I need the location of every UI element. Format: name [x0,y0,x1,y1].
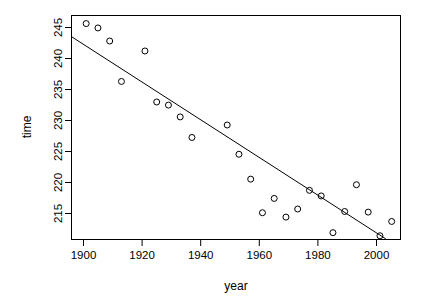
data-point [83,21,89,27]
scatter-plot-figure: 245 240 235 230 225 220 215 time 1900 19… [0,0,424,307]
data-point [377,233,383,239]
x-tick-label-1900: 1900 [71,249,97,261]
regression-fit-line [72,37,386,239]
data-point [365,209,371,215]
y-tick-label-215: 215 [52,204,64,223]
data-point [224,122,230,128]
data-point [295,206,301,212]
x-axis-ticks [84,240,377,246]
y-axis-tick-labels: 245 240 235 230 225 220 215 [52,18,64,223]
data-point [165,102,171,108]
data-point [306,187,312,193]
data-point [353,182,359,188]
x-tick-label-1960: 1960 [247,249,273,261]
data-point [154,99,160,105]
data-point [259,210,265,216]
plot-frame [72,16,401,240]
y-tick-label-235: 235 [52,80,64,99]
x-axis-title: year [224,279,247,293]
plot-canvas: 245 240 235 230 225 220 215 time 1900 19… [0,0,424,307]
x-axis-tick-labels: 1900 1920 1940 1960 1980 2000 [71,249,390,261]
data-point [389,218,395,224]
data-point [142,48,148,54]
x-tick-label-1920: 1920 [129,249,155,261]
x-tick-label-1940: 1940 [188,249,214,261]
y-tick-label-220: 220 [52,173,64,192]
data-point [177,114,183,120]
data-point [118,78,124,84]
data-point [107,38,113,44]
data-point [248,176,254,182]
x-tick-label-1980: 1980 [305,249,331,261]
y-tick-label-245: 245 [52,18,64,37]
y-axis-title: time [20,115,34,138]
y-tick-label-230: 230 [52,111,64,130]
data-point [95,25,101,31]
y-axis-ticks [65,28,71,214]
data-point [236,151,242,157]
data-point [271,195,277,201]
x-tick-label-2000: 2000 [364,249,390,261]
y-tick-label-240: 240 [52,49,64,68]
data-point [283,214,289,220]
data-point [189,134,195,140]
y-tick-label-225: 225 [52,142,64,161]
data-points-group [83,21,395,239]
data-point [330,230,336,236]
